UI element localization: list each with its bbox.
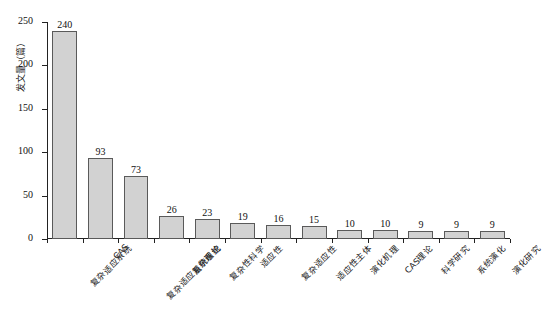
- bar-value-label: 16: [273, 213, 283, 224]
- y-tick-label: 250: [0, 15, 33, 26]
- x-tick: [510, 239, 511, 243]
- x-category-label: 复杂系统: [188, 242, 222, 276]
- bar[interactable]: 9: [444, 231, 469, 239]
- bar[interactable]: 9: [408, 231, 433, 239]
- bar-value-label: 26: [167, 204, 177, 215]
- bar[interactable]: 93: [88, 158, 113, 239]
- bar-value-label: 9: [490, 219, 495, 230]
- x-axis-category-labels: 复杂适应系统CAS复杂适应系统理论复杂系统复杂性科学适应性复杂适应性适应性主体演…: [47, 242, 510, 328]
- x-category-label: 科学研究: [437, 242, 471, 276]
- bar-value-label: 9: [454, 219, 459, 230]
- bar[interactable]: 16: [266, 225, 291, 239]
- y-axis-line: [47, 22, 48, 239]
- x-category-label: CAS理论: [402, 242, 435, 275]
- bar[interactable]: 19: [230, 223, 255, 239]
- y-tick-label: 50: [0, 189, 33, 200]
- y-tick: 200: [42, 65, 47, 66]
- y-tick-label: 150: [0, 102, 33, 113]
- bar-value-label: 10: [345, 218, 355, 229]
- y-tick: 150: [42, 109, 47, 110]
- bar[interactable]: 240: [52, 31, 77, 239]
- x-category-label: 系统演化: [473, 242, 507, 276]
- bar[interactable]: 9: [480, 231, 505, 239]
- y-tick-label: 200: [0, 58, 33, 69]
- bar-value-label: 93: [95, 146, 105, 157]
- y-tick: 50: [42, 196, 47, 197]
- bar-value-label: 73: [131, 164, 141, 175]
- bar[interactable]: 10: [373, 230, 398, 239]
- bar-value-label: 10: [380, 218, 390, 229]
- bar-value-label: 19: [238, 211, 248, 222]
- y-tick: 250: [42, 22, 47, 23]
- x-category-label: 适应性主体: [333, 242, 373, 282]
- bar[interactable]: 26: [159, 216, 184, 239]
- bar-value-label: 240: [57, 19, 72, 30]
- y-tick-label: 100: [0, 145, 33, 156]
- bar[interactable]: 10: [337, 230, 362, 239]
- bar-value-label: 15: [309, 214, 319, 225]
- plot-area: 050100150200250 240937326231916151010999: [47, 22, 510, 239]
- x-category-label: 演化研究: [509, 242, 543, 276]
- bar[interactable]: 73: [124, 176, 149, 239]
- bar-value-label: 23: [202, 207, 212, 218]
- bar[interactable]: 15: [302, 226, 327, 239]
- x-category-label: 复杂适应性: [298, 242, 338, 282]
- y-tick-label: 0: [0, 232, 33, 243]
- y-tick: 100: [42, 152, 47, 153]
- bar[interactable]: 23: [195, 219, 220, 239]
- bar-value-label: 9: [418, 219, 423, 230]
- x-category-label: 演化机理: [366, 242, 400, 276]
